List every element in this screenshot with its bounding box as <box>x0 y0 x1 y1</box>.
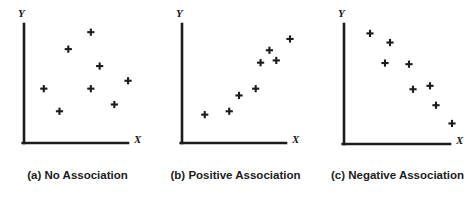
data-point-plus-icon <box>426 82 433 89</box>
data-point-plus-icon <box>273 57 280 64</box>
panel-c-caption-tag: (c) <box>331 169 345 181</box>
data-point-plus-icon <box>226 108 233 115</box>
panel-b: YX(b) Positive Association <box>158 0 313 202</box>
data-point-plus-icon <box>56 108 63 115</box>
panel-c-caption-text: Negative Association <box>348 169 464 181</box>
data-point-plus-icon <box>235 92 242 99</box>
panel-a-caption: (a) No Association <box>0 168 155 182</box>
data-point-plus-icon <box>266 47 273 54</box>
panel-b-x-axis-label: X <box>292 134 299 145</box>
panel-a-x-axis-label: X <box>134 134 141 145</box>
panel-c: YX(c) Negative Association <box>320 0 475 202</box>
data-point-plus-icon <box>386 39 393 46</box>
panel-c-y-axis-label: Y <box>338 8 345 19</box>
panel-a-caption-tag: (a) <box>27 169 41 181</box>
panel-c-axes-and-points <box>320 0 475 160</box>
data-point-plus-icon <box>201 111 208 118</box>
panel-b-caption-text: Positive Association <box>188 169 300 181</box>
panel-c-x-axis-label: X <box>456 135 463 146</box>
panel-c-caption: (c) Negative Association <box>320 168 475 182</box>
panel-b-y-axis-label: Y <box>176 8 183 19</box>
panel-a-axes-and-points <box>0 0 155 160</box>
data-point-plus-icon <box>252 85 259 92</box>
panel-c-data-points <box>366 30 455 127</box>
data-point-plus-icon <box>286 35 293 42</box>
data-point-plus-icon <box>432 102 439 109</box>
panel-a-plot-area: YX <box>0 0 155 160</box>
association-scatterplots-figure: YX(a) No AssociationYX(b) Positive Assoc… <box>0 0 476 202</box>
data-point-plus-icon <box>257 59 264 66</box>
panel-b-plot-area: YX <box>158 0 313 160</box>
data-point-plus-icon <box>96 62 103 69</box>
data-point-plus-icon <box>448 120 455 127</box>
panel-a-data-points <box>40 29 131 115</box>
panel-c-plot-area: YX <box>320 0 475 160</box>
panel-b-caption: (b) Positive Association <box>158 168 313 182</box>
data-point-plus-icon <box>65 46 72 53</box>
data-point-plus-icon <box>124 77 131 84</box>
data-point-plus-icon <box>87 29 94 36</box>
data-point-plus-icon <box>87 85 94 92</box>
data-point-plus-icon <box>366 30 373 37</box>
panel-b-data-points <box>201 35 293 118</box>
panel-a-y-axis-label: Y <box>18 8 25 19</box>
data-point-plus-icon <box>381 59 388 66</box>
panel-a: YX(a) No Association <box>0 0 155 202</box>
data-point-plus-icon <box>409 86 416 93</box>
panel-b-axes-and-points <box>158 0 313 160</box>
data-point-plus-icon <box>405 61 412 68</box>
panel-b-caption-tag: (b) <box>171 169 186 181</box>
data-point-plus-icon <box>111 101 118 108</box>
data-point-plus-icon <box>40 85 47 92</box>
panel-a-caption-text: No Association <box>44 169 127 181</box>
